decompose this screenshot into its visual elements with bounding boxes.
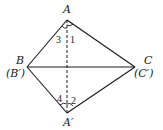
label-A-prime: A′ bbox=[62, 116, 74, 129]
angle-label-3: 3 bbox=[56, 34, 61, 45]
label-A: A bbox=[62, 3, 71, 16]
label-B-prime: (B′) bbox=[6, 67, 25, 80]
label-B: B bbox=[15, 54, 24, 67]
angle-label-4: 4 bbox=[57, 93, 62, 104]
label-C-prime: (C′) bbox=[134, 67, 154, 80]
segment-AC bbox=[67, 20, 135, 67]
angle-label-1: 1 bbox=[70, 34, 75, 45]
geometry-diagram: A B (B′) C (C′) A′ 3 1 4 2 bbox=[0, 0, 163, 130]
segment-A-prime-B bbox=[27, 67, 67, 113]
segment-A-prime-C bbox=[67, 67, 135, 113]
angle-label-2: 2 bbox=[71, 95, 76, 106]
segment-AB bbox=[27, 20, 67, 67]
angle-arc-1 bbox=[67, 24, 73, 26]
label-C: C bbox=[144, 54, 153, 67]
angle-arc-3 bbox=[62, 26, 67, 28]
